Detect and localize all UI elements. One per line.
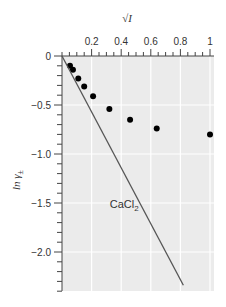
plot-background [62,56,214,291]
chart: 0.20.40.60.81 0−0.5−1.0−1.5−2.0 √I ln γ±… [0,0,226,307]
x-tick-label: 0.6 [144,36,158,47]
x-tick-label: 0.2 [85,36,99,47]
data-point [127,117,133,123]
data-point [154,126,160,132]
y-tick-label: −1.5 [31,198,51,209]
y-axis-title-main: ln γ [10,174,22,190]
y-tick-label: −0.5 [31,100,51,111]
data-point [90,93,96,99]
x-tick-label: 0.8 [173,36,187,47]
annotation-text: CaCl [110,198,134,210]
annotation-subscript: 2 [134,204,139,213]
x-axis-title: √I [122,12,133,24]
y-axis-ticks: 0−0.5−1.0−1.5−2.0 [31,51,62,292]
y-axis-title: ln γ± [10,169,25,190]
y-tick-label: 0 [45,51,51,62]
y-tick-label: −2.0 [31,247,51,258]
data-point [207,131,213,137]
data-point [106,106,112,112]
y-tick-label: −1.0 [31,149,51,160]
data-point [81,83,87,89]
x-tick-label: 1 [207,36,213,47]
x-axis-ticks: 0.20.40.60.81 [62,36,213,56]
x-tick-label: 0.4 [114,36,128,47]
y-axis-title-subscript: ± [16,169,25,174]
data-point [75,76,81,82]
